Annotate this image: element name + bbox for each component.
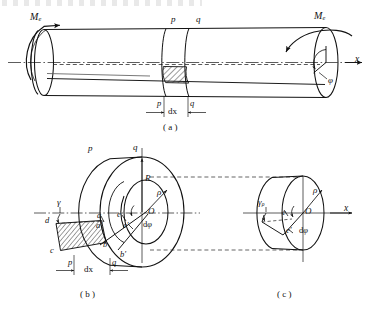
panel-b-dim-q-label: q: [112, 258, 116, 267]
panel-c-dphi-label: dφ: [299, 226, 308, 235]
panel-a-moment-right-label: Me: [314, 11, 325, 22]
torsion-figure: [0, 0, 372, 315]
panel-a-top-generator: [44, 28, 326, 30]
panel-c-gamma-arc: [264, 213, 266, 221]
panel-a-moment-left-label: Me: [30, 12, 41, 23]
panel-b-gen-top: [110, 157, 142, 159]
panel-b-outer-face-p: [79, 159, 110, 265]
panel-b-dim-p-label: p: [68, 258, 72, 267]
panel-b-dphi-arc: [131, 206, 134, 217]
panel-a-phi-label: φ: [328, 76, 333, 85]
panel-a-bottom-generator: [44, 96, 326, 98]
panel-b-radius-R-label: R: [145, 174, 151, 183]
panel-a-dx-label: dx: [168, 107, 177, 116]
panel-b-section: [34, 148, 300, 275]
panel-b-gamma-label: γ: [57, 198, 61, 207]
panel-b-dphi-label: dφ: [143, 220, 152, 229]
panel-c-radius-rho-label: ρ: [313, 186, 317, 195]
panel-b-gamma-arc: [58, 214, 60, 223]
panel-a-section-q-label: q: [196, 15, 201, 24]
panel-c-axis-x-label: x: [344, 204, 348, 214]
panel-a-shaft: [8, 25, 362, 117]
panel-a-radius-rotated: [314, 63, 327, 74]
panel-b-point-a-label: a: [97, 211, 101, 220]
panel-b-center-O-label: O: [148, 207, 155, 216]
panel-c-dashed-ref: [262, 219, 292, 222]
panel-b-section-p-label: p: [88, 144, 93, 153]
panel-a-element-hatch: [163, 67, 189, 84]
panel-b-point-d-label: d: [45, 216, 49, 225]
panel-b-point-b-label: b: [103, 240, 107, 249]
panel-c-dphi-arc: [292, 206, 294, 217]
panel-b-point-aprime-label: a′: [96, 221, 102, 230]
panel-a-caption: ( a ): [163, 122, 178, 132]
panel-a-surface-line-2: [47, 74, 150, 77]
panel-a-section-q-bottom-label: q: [190, 99, 194, 108]
panel-c-element-line: [262, 222, 283, 235]
panel-b-point-eprime-label: e′: [123, 221, 129, 230]
panel-a-section-p-label: p: [171, 15, 176, 24]
panel-a-axis-x-label: x: [355, 55, 359, 65]
panel-b-point-e-label: e: [117, 210, 121, 219]
panel-b-point-c-label: c: [50, 246, 54, 255]
panel-b-point-bprime-label: b′: [120, 250, 126, 259]
panel-b-dx-label: dx: [84, 265, 93, 274]
panel-a-section-p-bottom-label: p: [157, 99, 161, 108]
panel-c-gamma-rho-label: γρ: [258, 198, 265, 208]
panel-a-phi-arc: [314, 50, 326, 70]
panel-c-point-e-label: e: [282, 208, 286, 217]
panel-b-radius-rho-label: ρ: [157, 188, 161, 197]
panel-b-caption: ( b ): [80, 289, 95, 299]
panel-b-section-q-label: q: [133, 143, 138, 152]
panel-c-point-eprime-label: e′: [286, 226, 292, 235]
panel-a-phi-leader: [319, 73, 327, 80]
panel-c-section: [243, 176, 352, 262]
panel-c-caption: ( c ): [277, 289, 292, 299]
panel-c-center-O-label: O: [305, 207, 312, 216]
